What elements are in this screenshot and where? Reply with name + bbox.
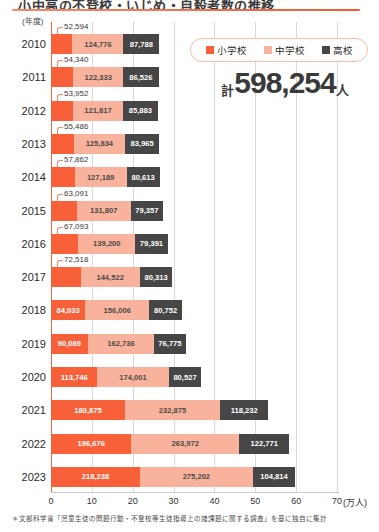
y-axis-year-label: 2013 bbox=[2, 138, 46, 150]
y-axis-year-label: 2019 bbox=[2, 338, 46, 350]
bar-segment-juniorhigh: 275,202 bbox=[140, 467, 252, 487]
bar-segment-elementary: 53,952 bbox=[51, 101, 73, 121]
bar-segment-elementary: 196,676 bbox=[51, 434, 131, 454]
bar-segment-juniorhigh: 131,807 bbox=[77, 201, 131, 221]
x-tick-label: 70 bbox=[332, 496, 342, 506]
bar-segment-juniorhigh: 162,736 bbox=[88, 334, 154, 354]
bar-segment-juniorhigh: 156,006 bbox=[85, 300, 149, 320]
bar-segment-elementary: 63,091 bbox=[51, 201, 77, 221]
source-footnote: ＊文部科学省「児童生徒の問題行動・不登校等生徒指導上の諸課題に関する調査」を基に… bbox=[12, 513, 327, 523]
bar-segment-elementary: 218,238 bbox=[51, 467, 140, 487]
total-suffix: 人 bbox=[336, 83, 349, 98]
bar-segment-highschool: 80,313 bbox=[140, 267, 173, 287]
y-axis-year-label: 2023 bbox=[2, 471, 46, 483]
bar-segment-elementary: 72,518 bbox=[51, 267, 81, 287]
bar-segment-highschool: 80,752 bbox=[149, 300, 182, 320]
y-axis-year-label: 2018 bbox=[2, 304, 46, 316]
legend-label: 中学校 bbox=[275, 43, 305, 57]
bar-segment-elementary: 54,340 bbox=[51, 67, 73, 87]
bar-segment-elementary: 67,093 bbox=[51, 234, 78, 254]
square-swatch-icon bbox=[206, 46, 214, 54]
chart-legend: 小学校 中学校 高校 bbox=[190, 38, 368, 62]
bar-row: 54,340122,33386,526 bbox=[51, 67, 159, 87]
callout-leader-line bbox=[57, 227, 63, 234]
y-axis-year-label: 2014 bbox=[2, 171, 46, 183]
callout-leader-line bbox=[57, 27, 63, 34]
bar-segment-juniorhigh: 232,875 bbox=[125, 400, 220, 420]
x-axis-baseline bbox=[51, 492, 339, 493]
bar-row: 55,486125,83483,965 bbox=[51, 134, 159, 154]
x-tick-label: 60 bbox=[291, 496, 301, 506]
bar-segment-highschool: 104,814 bbox=[253, 467, 296, 487]
bar-segment-juniorhigh: 122,333 bbox=[73, 67, 123, 87]
bar-segment-elementary: 84,033 bbox=[51, 300, 85, 320]
bar-row: 53,952121,81785,883 bbox=[51, 101, 158, 121]
callout-leader-line bbox=[57, 60, 63, 67]
square-swatch-icon bbox=[322, 46, 330, 54]
x-tick-label: 10 bbox=[87, 496, 97, 506]
title-underline bbox=[12, 9, 360, 11]
bar-segment-highschool: 83,965 bbox=[125, 134, 159, 154]
bar-segment-juniorhigh: 124,776 bbox=[72, 34, 123, 54]
bar-segment-highschool: 80,527 bbox=[169, 367, 202, 387]
bar-row: 67,093139,20079,391 bbox=[51, 234, 168, 254]
bar-segment-highschool: 86,526 bbox=[123, 67, 158, 87]
legend-label: 小学校 bbox=[217, 43, 247, 57]
bar-segment-elementary: 52,594 bbox=[51, 34, 72, 54]
bar-segment-highschool: 76,775 bbox=[154, 334, 185, 354]
legend-item-juniorhigh: 中学校 bbox=[264, 43, 305, 57]
y-axis-year-label: 2016 bbox=[2, 238, 46, 250]
callout-value-label: 63,091 bbox=[64, 189, 88, 198]
bar-row: 57,862127,18980,613 bbox=[51, 167, 160, 187]
callout-value-label: 67,093 bbox=[64, 222, 88, 231]
callout-leader-line bbox=[57, 127, 63, 134]
callout-leader-line bbox=[57, 94, 63, 101]
callout-leader-line bbox=[57, 160, 63, 167]
legend-item-highschool: 高校 bbox=[322, 43, 353, 57]
bar-segment-elementary: 90,089 bbox=[51, 334, 88, 354]
bar-segment-highschool: 79,357 bbox=[131, 201, 163, 221]
bar-row: 72,518144,52280,313 bbox=[51, 267, 172, 287]
bar-segment-juniorhigh: 121,817 bbox=[73, 101, 123, 121]
bar-row: 84,033156,00680,752 bbox=[51, 300, 182, 320]
page-title: 小中高の不登校・いじめ・自殺者数の推移 bbox=[18, 0, 275, 9]
callout-leader-line bbox=[57, 260, 63, 267]
x-tick-label: 50 bbox=[250, 496, 260, 506]
y-axis-year-label: 2022 bbox=[2, 438, 46, 450]
y-axis-year-label: 2021 bbox=[2, 404, 46, 416]
bar-segment-juniorhigh: 174,001 bbox=[97, 367, 168, 387]
bar-segment-highschool: 79,391 bbox=[135, 234, 167, 254]
callout-value-label: 53,952 bbox=[64, 89, 88, 98]
bar-segment-highschool: 85,883 bbox=[123, 101, 158, 121]
y-axis-year-label: 2017 bbox=[2, 271, 46, 283]
gridline bbox=[133, 22, 134, 492]
bar-segment-juniorhigh: 127,189 bbox=[75, 167, 127, 187]
bar-segment-elementary: 180,875 bbox=[51, 400, 125, 420]
bar-row: 218,238275,202104,814 bbox=[51, 467, 295, 487]
callout-leader-line bbox=[57, 194, 63, 201]
axis-line-zero bbox=[51, 22, 52, 492]
x-tick-label: 30 bbox=[169, 496, 179, 506]
callout-value-label: 57,862 bbox=[64, 155, 88, 164]
bar-row: 180,875232,875118,232 bbox=[51, 400, 268, 420]
x-tick-label: 0 bbox=[48, 496, 53, 506]
bar-segment-juniorhigh: 263,972 bbox=[131, 434, 239, 454]
bar-row: 90,089162,73676,775 bbox=[51, 334, 186, 354]
y-axis-year-label: 2012 bbox=[2, 105, 46, 117]
chart-page: 小中高の不登校・いじめ・自殺者数の推移 (年度) 52,594124,77687… bbox=[0, 0, 379, 532]
y-axis-year-label: 2011 bbox=[2, 71, 46, 83]
y-axis-year-label: 2015 bbox=[2, 205, 46, 217]
bar-segment-highschool: 87,788 bbox=[123, 34, 159, 54]
bar-segment-juniorhigh: 144,522 bbox=[81, 267, 140, 287]
bar-segment-juniorhigh: 125,834 bbox=[74, 134, 125, 154]
total-prefix: 計 bbox=[221, 83, 234, 98]
total-value: 598,254 bbox=[234, 66, 335, 99]
bar-segment-elementary: 55,486 bbox=[51, 134, 74, 154]
x-tick-label: 20 bbox=[128, 496, 138, 506]
y-axis-year-label: 2020 bbox=[2, 371, 46, 383]
bar-segment-elementary: 113,746 bbox=[51, 367, 97, 387]
callout-value-label: 54,340 bbox=[64, 55, 88, 64]
bar-row: 196,676263,972122,771 bbox=[51, 434, 289, 454]
bar-segment-elementary: 57,862 bbox=[51, 167, 75, 187]
legend-item-elementary: 小学校 bbox=[206, 43, 247, 57]
